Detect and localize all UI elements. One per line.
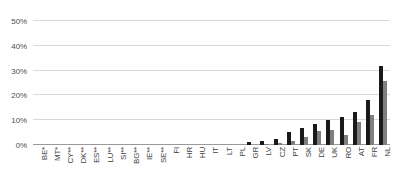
- bar-group: [152, 21, 165, 145]
- bar-group: [178, 21, 191, 145]
- bar-group: [218, 21, 231, 145]
- bar-group: [284, 21, 297, 145]
- bar-group: [337, 21, 350, 145]
- bar: [330, 130, 334, 145]
- x-tick: GR: [245, 146, 258, 186]
- x-tick: FI: [165, 146, 178, 186]
- bar-group: [363, 21, 376, 145]
- y-tick-label: 10%: [11, 116, 27, 125]
- bar: [264, 144, 268, 145]
- x-tick: SI**: [112, 146, 125, 186]
- x-tick: MT*: [46, 146, 59, 186]
- x-tick: BE*: [33, 146, 46, 186]
- bar: [291, 141, 295, 145]
- bar-group: [99, 21, 112, 145]
- x-tick: PT: [284, 146, 297, 186]
- x-tick: CY**: [59, 146, 72, 186]
- x-tick: DK**: [73, 146, 86, 186]
- bar-group: [271, 21, 284, 145]
- bar: [383, 81, 387, 145]
- bar-chart: 0%10%20%30%40%50% BE*MT*CY**DK**ES**LU**…: [0, 0, 402, 186]
- x-tick: AT: [350, 146, 363, 186]
- bar-group: [324, 21, 337, 145]
- bar-group: [205, 21, 218, 145]
- bar: [304, 137, 308, 145]
- x-tick: SE**: [152, 146, 165, 186]
- x-tick: IT: [205, 146, 218, 186]
- plot-area: [33, 21, 390, 145]
- bar: [247, 142, 251, 145]
- bar-group: [59, 21, 72, 145]
- x-tick: BG**: [126, 146, 139, 186]
- bar-group: [86, 21, 99, 145]
- x-tick: LV: [258, 146, 271, 186]
- bars-layer: [33, 21, 390, 145]
- x-tick: LU**: [99, 146, 112, 186]
- bar-group: [258, 21, 271, 145]
- y-tick-label: 0%: [16, 141, 27, 150]
- x-tick: HU: [192, 146, 205, 186]
- bar-group: [231, 21, 244, 145]
- x-tick-label: NL: [383, 147, 392, 157]
- bar-group: [311, 21, 324, 145]
- bar: [357, 122, 361, 145]
- bar-group: [126, 21, 139, 145]
- x-tick: NL: [377, 146, 390, 186]
- x-tick: IE**: [139, 146, 152, 186]
- bar-group: [139, 21, 152, 145]
- x-tick: HR: [178, 146, 191, 186]
- x-tick: DE: [311, 146, 324, 186]
- bar: [317, 131, 321, 145]
- x-tick: CZ: [271, 146, 284, 186]
- bar-group: [112, 21, 125, 145]
- bar-group: [33, 21, 46, 145]
- bar-group: [245, 21, 258, 145]
- x-tick: FR: [363, 146, 376, 186]
- bar: [344, 135, 348, 145]
- bar-group: [46, 21, 59, 145]
- bar-group: [192, 21, 205, 145]
- bar-group: [165, 21, 178, 145]
- bar-group: [377, 21, 390, 145]
- y-tick-label: 40%: [11, 41, 27, 50]
- x-tick: ES**: [86, 146, 99, 186]
- y-axis: 0%10%20%30%40%50%: [0, 21, 31, 145]
- x-tick: RO: [337, 146, 350, 186]
- bar-group: [73, 21, 86, 145]
- y-tick-label: 20%: [11, 91, 27, 100]
- x-tick: LT: [218, 146, 231, 186]
- x-axis: BE*MT*CY**DK**ES**LU**SI**BG**IE**SE**FI…: [33, 146, 390, 186]
- bar-group: [297, 21, 310, 145]
- x-tick: UK: [324, 146, 337, 186]
- y-tick-label: 30%: [11, 66, 27, 75]
- bar: [278, 143, 282, 145]
- bar: [370, 115, 374, 145]
- x-tick: PL: [231, 146, 244, 186]
- x-tick: SK: [297, 146, 310, 186]
- bar-group: [350, 21, 363, 145]
- y-tick-label: 50%: [11, 17, 27, 26]
